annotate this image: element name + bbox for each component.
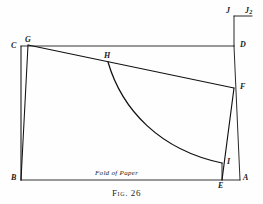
point-label-D: D: [240, 41, 246, 49]
figure-caption: Fig. 26: [112, 188, 141, 198]
point-label-J2-subscript: 2: [249, 9, 252, 15]
point-label-J: J: [226, 7, 230, 15]
segment-D-A: [234, 46, 240, 180]
point-label-H: H: [104, 52, 110, 60]
figure-line-group: [21, 16, 252, 180]
segment-G-F: [28, 45, 234, 88]
arc-H-I: [108, 62, 222, 163]
segment-F-E: [222, 88, 234, 180]
point-label-E: E: [218, 182, 224, 190]
point-label-A: A: [243, 174, 249, 182]
point-label-F: F: [240, 83, 246, 91]
point-label-I: I: [227, 158, 230, 166]
segment-G-B: [21, 45, 28, 180]
figure-container: C G B H D F I E A J J2 Fold of Paper Fig…: [0, 0, 263, 204]
point-label-G: G: [25, 36, 31, 44]
point-label-C: C: [11, 42, 17, 50]
point-label-B: B: [11, 174, 17, 182]
point-label-J2: J2: [245, 7, 252, 15]
fold-of-paper-label: Fold of Paper: [95, 169, 138, 177]
